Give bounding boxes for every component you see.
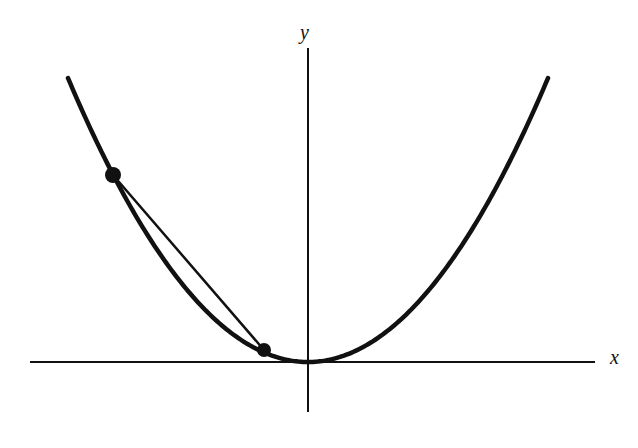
upper-point-marker — [105, 167, 121, 183]
secant-group — [113, 175, 264, 350]
x-axis-label: x — [610, 347, 619, 367]
figure-canvas: y x — [0, 0, 638, 448]
parabola-secant-plot — [0, 0, 638, 448]
axes-group — [30, 48, 595, 412]
lower-point-marker — [257, 343, 271, 357]
secant-chord-line — [113, 175, 264, 350]
y-axis-label: y — [300, 22, 309, 42]
